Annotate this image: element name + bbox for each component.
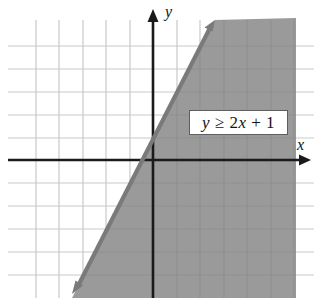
y-axis-label: y <box>165 4 172 20</box>
inequality-part-plus: + <box>251 113 261 133</box>
x-axis-label: x <box>297 137 304 153</box>
inequality-part-y: y <box>202 113 210 133</box>
inequality-graph-figure: y x y ≥ 2x + 1 <box>0 0 314 298</box>
inequality-part-x: x <box>238 113 246 133</box>
inequality-annotation-label: y ≥ 2x + 1 <box>189 110 288 135</box>
plot-canvas <box>0 0 314 298</box>
inequality-part-operator: ≥ <box>215 113 225 133</box>
inequality-part-constant: 1 <box>266 113 275 133</box>
